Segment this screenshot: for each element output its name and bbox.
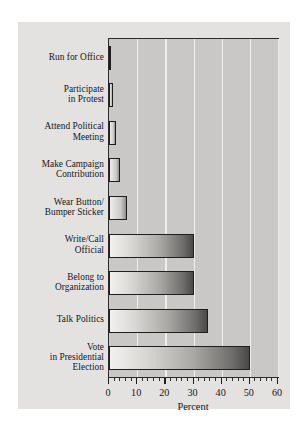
major-tick-20: [164, 378, 165, 384]
category-label: Talk Politics: [18, 314, 104, 324]
x-tick-label-50: 50: [244, 387, 254, 398]
major-tick-60: [277, 378, 278, 384]
category-label-line: in Protest: [18, 94, 104, 104]
minor-tick-28: [187, 378, 188, 381]
bar-row: [109, 309, 278, 333]
category-label-line: Attend Political: [18, 121, 104, 131]
category-label-line: Vote: [18, 342, 104, 352]
minor-tick-48: [243, 378, 244, 381]
bar-row: [109, 121, 278, 145]
minor-tick-4: [119, 378, 120, 381]
category-label-line: Wear Button/: [18, 197, 104, 207]
minor-tick-18: [159, 378, 160, 381]
x-tick-label-40: 40: [216, 387, 226, 398]
category-label-line: Write/Call: [18, 234, 104, 244]
x-axis-title: Percent: [108, 401, 278, 412]
minor-tick-16: [153, 378, 154, 381]
bar-row: [109, 234, 278, 258]
major-tick-30: [193, 378, 194, 384]
minor-tick-46: [238, 378, 239, 381]
category-label-line: Bumper Sticker: [18, 207, 104, 217]
x-tick-label-30: 30: [187, 387, 197, 398]
category-label: Wear Button/Bumper Sticker: [18, 197, 104, 218]
plot-area: [108, 38, 279, 378]
minor-tick-34: [204, 378, 205, 381]
bar-row: [109, 158, 278, 182]
x-tick-label-60: 60: [272, 387, 282, 398]
category-label: Make CampaignContribution: [18, 159, 104, 180]
bar: [109, 83, 113, 107]
minor-tick-8: [131, 378, 132, 381]
major-tick-0: [108, 378, 109, 384]
gridline-60: [278, 39, 279, 377]
minor-tick-12: [142, 378, 143, 381]
x-axis-tick-labels: 0102030405060: [108, 387, 278, 401]
minor-tick-52: [254, 378, 255, 381]
category-label-line: Contribution: [18, 169, 104, 179]
minor-tick-44: [232, 378, 233, 381]
bar-row: [109, 83, 278, 107]
category-label-line: Participate: [18, 84, 104, 94]
minor-tick-2: [114, 378, 115, 381]
category-axis-labels: Run for OfficeParticipatein ProtestAtten…: [18, 38, 104, 376]
major-tick-40: [221, 378, 222, 384]
category-label-line: Belong to: [18, 272, 104, 282]
category-label: Participatein Protest: [18, 84, 104, 105]
minor-tick-24: [176, 378, 177, 381]
bar: [109, 309, 208, 333]
category-label: Belong toOrganization: [18, 272, 104, 293]
minor-tick-54: [260, 378, 261, 381]
minor-tick-22: [170, 378, 171, 381]
bar: [109, 346, 250, 370]
minor-tick-32: [198, 378, 199, 381]
bar-row: [109, 46, 278, 70]
category-label-line: Make Campaign: [18, 159, 104, 169]
minor-tick-36: [209, 378, 210, 381]
major-tick-10: [136, 378, 137, 384]
x-tick-label-0: 0: [105, 387, 110, 398]
x-tick-label-20: 20: [159, 387, 169, 398]
category-label-line: Official: [18, 245, 104, 255]
category-label-line: Election: [18, 362, 104, 372]
minor-tick-42: [226, 378, 227, 381]
category-label-line: Talk Politics: [18, 314, 104, 324]
x-tick-label-10: 10: [131, 387, 141, 398]
major-tick-50: [249, 378, 250, 384]
bar: [109, 196, 127, 220]
category-label-line: in Presidential: [18, 352, 104, 362]
minor-tick-14: [147, 378, 148, 381]
bar-row: [109, 346, 278, 370]
category-label: Run for Office: [18, 52, 104, 62]
bar-row: [109, 271, 278, 295]
bar: [109, 271, 194, 295]
chart-figure: Run for OfficeParticipatein ProtestAtten…: [18, 22, 290, 409]
minor-tick-58: [271, 378, 272, 381]
bar: [109, 158, 120, 182]
bar: [109, 46, 111, 70]
minor-tick-38: [215, 378, 216, 381]
bar: [109, 121, 116, 145]
minor-tick-6: [125, 378, 126, 381]
category-label-line: Meeting: [18, 132, 104, 142]
x-axis-ticks: [108, 378, 278, 386]
category-label-line: Run for Office: [18, 52, 104, 62]
minor-tick-56: [266, 378, 267, 381]
category-label-line: Organization: [18, 282, 104, 292]
minor-tick-26: [181, 378, 182, 381]
category-label: Votein PresidentialElection: [18, 342, 104, 373]
category-label: Attend PoliticalMeeting: [18, 121, 104, 142]
bar-row: [109, 196, 278, 220]
bar: [109, 234, 194, 258]
category-label: Write/CallOfficial: [18, 234, 104, 255]
